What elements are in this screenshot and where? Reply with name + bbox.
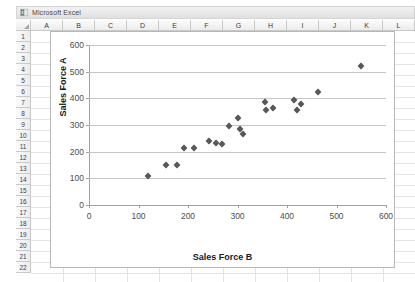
row-header[interactable]: 8	[16, 108, 31, 119]
data-point-marker[interactable]	[358, 63, 365, 70]
data-point-marker[interactable]	[261, 99, 268, 106]
y-tick	[86, 98, 89, 99]
data-point-marker[interactable]	[297, 100, 304, 107]
y-gridline	[89, 178, 386, 179]
x-tick	[337, 205, 338, 208]
row-header[interactable]: 19	[16, 229, 31, 240]
row-header[interactable]: 9	[16, 119, 31, 130]
x-tick-label: 200	[173, 211, 203, 221]
x-tick-label: 0	[74, 211, 104, 221]
row-header[interactable]: 7	[16, 97, 31, 108]
data-point-marker[interactable]	[190, 144, 197, 151]
column-header[interactable]: E	[159, 20, 191, 31]
y-tick	[86, 45, 89, 46]
row-header[interactable]: 10	[16, 130, 31, 141]
row-header[interactable]: 20	[16, 240, 31, 251]
row-header[interactable]: 13	[16, 163, 31, 174]
window-titlebar: Microsoft Excel	[16, 6, 415, 19]
y-tick-label: 100	[60, 173, 84, 183]
row-header[interactable]: 14	[16, 174, 31, 185]
y-tick	[86, 178, 89, 179]
column-header[interactable]: D	[127, 20, 159, 31]
row-header[interactable]: 18	[16, 218, 31, 229]
row-header[interactable]: 16	[16, 196, 31, 207]
y-gridline	[89, 72, 386, 73]
data-point-marker[interactable]	[270, 104, 277, 111]
data-point-marker[interactable]	[162, 161, 169, 168]
row-header[interactable]: 4	[16, 64, 31, 75]
data-point-marker[interactable]	[174, 161, 181, 168]
data-point-marker[interactable]	[240, 131, 247, 138]
y-gridline	[89, 45, 386, 46]
y-tick-label: 600	[60, 40, 84, 50]
row-header[interactable]: 17	[16, 207, 31, 218]
chart-plot-wrapper: Sales Force A Sales Force B 010020030040…	[51, 32, 394, 267]
x-tick-label: 300	[223, 211, 253, 221]
y-tick-label: 200	[60, 147, 84, 157]
x-tick	[287, 205, 288, 208]
data-point-marker[interactable]	[218, 140, 225, 147]
data-point-marker[interactable]	[291, 96, 298, 103]
data-point-marker[interactable]	[206, 137, 213, 144]
row-header[interactable]: 6	[16, 86, 31, 97]
column-header[interactable]: K	[351, 20, 383, 31]
x-tick	[139, 205, 140, 208]
y-tick-label: 400	[60, 93, 84, 103]
column-header[interactable]: J	[319, 20, 351, 31]
column-header[interactable]: A	[31, 20, 63, 31]
x-tick	[386, 205, 387, 208]
row-header[interactable]: 2	[16, 42, 31, 53]
y-tick	[86, 125, 89, 126]
x-tick-label: 100	[124, 211, 154, 221]
y-gridline	[89, 98, 386, 99]
row-header[interactable]: 3	[16, 53, 31, 64]
x-tick-label: 500	[322, 211, 352, 221]
column-header[interactable]: G	[223, 20, 255, 31]
data-point-marker[interactable]	[314, 88, 321, 95]
x-tick-label: 600	[371, 211, 401, 221]
row-header[interactable]: 11	[16, 141, 31, 152]
select-all-corner[interactable]	[16, 20, 31, 31]
grid-row-line	[31, 273, 415, 274]
column-header[interactable]: F	[191, 20, 223, 31]
data-point-marker[interactable]	[226, 123, 233, 130]
row-header[interactable]: 1	[16, 31, 31, 42]
x-axis-title: Sales Force B	[51, 252, 394, 262]
column-headers: A B C D E F G H I J K L	[16, 20, 415, 31]
x-tick	[238, 205, 239, 208]
data-point-marker[interactable]	[293, 107, 300, 114]
y-tick-label: 0	[60, 200, 84, 210]
column-header[interactable]: I	[287, 20, 319, 31]
y-gridline	[89, 125, 386, 126]
excel-window: Microsoft Excel A B C D E F G H I J K L …	[0, 0, 415, 282]
x-tick	[188, 205, 189, 208]
column-header[interactable]: B	[63, 20, 95, 31]
row-header[interactable]: 15	[16, 185, 31, 196]
column-header[interactable]: L	[383, 20, 415, 31]
x-tick	[89, 205, 90, 208]
data-point-marker[interactable]	[234, 115, 241, 122]
y-tick	[86, 72, 89, 73]
window-title: Microsoft Excel	[32, 9, 81, 16]
column-header[interactable]: H	[255, 20, 287, 31]
y-tick	[86, 152, 89, 153]
y-tick-label: 500	[60, 67, 84, 77]
row-header[interactable]: 22	[16, 262, 31, 273]
excel-icon	[20, 8, 29, 17]
row-header[interactable]: 5	[16, 75, 31, 86]
y-gridline	[89, 152, 386, 153]
row-headers: 1 2 3 4 5 6 7 8 9 10 11 12 13 14 15 16 1…	[16, 31, 31, 273]
plot-area	[89, 45, 386, 205]
row-header[interactable]: 21	[16, 251, 31, 262]
scatter-chart[interactable]: Sales Force A Sales Force B 010020030040…	[50, 31, 395, 268]
row-header[interactable]: 12	[16, 152, 31, 163]
column-header[interactable]: C	[95, 20, 127, 31]
y-tick-label: 300	[60, 120, 84, 130]
data-point-marker[interactable]	[180, 144, 187, 151]
x-tick-label: 400	[272, 211, 302, 221]
